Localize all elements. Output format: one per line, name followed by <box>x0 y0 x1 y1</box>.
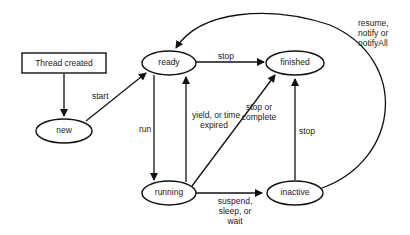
label-start: start <box>92 91 109 101</box>
label-resume-1: resume, <box>358 18 389 28</box>
label-run: run <box>139 124 152 134</box>
node-running-label: running <box>155 187 184 197</box>
label-resume-2: notify or <box>358 28 388 38</box>
label-suspend-3: wait <box>226 216 243 226</box>
label-suspend-2: sleep, or <box>219 206 252 216</box>
node-ready-label: ready <box>158 57 180 67</box>
label-yield-2: expired <box>200 120 228 130</box>
label-yield-1: yield, or time <box>192 110 240 120</box>
node-new-label: new <box>56 125 72 135</box>
label-stop-complete-1: stop or <box>246 102 272 112</box>
thread-state-diagram: Thread created new ready finished runnin… <box>0 0 410 235</box>
label-suspend-1: suspend, <box>218 196 253 206</box>
label-inactive-stop: stop <box>299 126 315 136</box>
node-thread-created-label: Thread created <box>35 58 93 68</box>
label-stop-complete-2: complete <box>242 112 277 122</box>
label-ready-stop: stop <box>218 51 234 61</box>
node-finished-label: finished <box>280 57 310 67</box>
edge-resume <box>176 13 385 188</box>
node-inactive-label: inactive <box>281 187 310 197</box>
edge-stop-complete <box>192 75 275 186</box>
label-resume-3: notifyAll <box>358 38 388 48</box>
